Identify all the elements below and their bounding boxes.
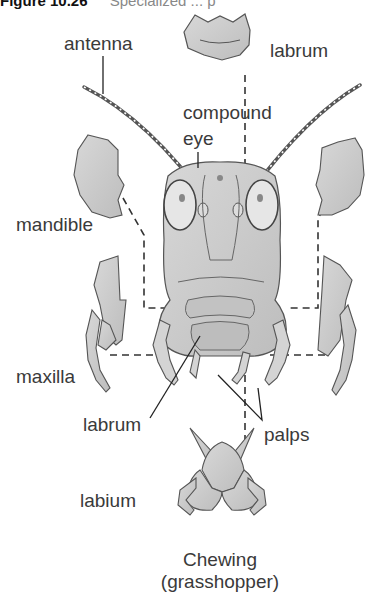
compound-eye-left	[164, 180, 196, 230]
compound-eye-right	[246, 180, 278, 230]
caption-line-1: Chewing	[120, 549, 320, 571]
label-compound: compound	[183, 103, 272, 122]
label-labrum-bottom: labrum	[83, 415, 141, 434]
label-maxilla: maxilla	[16, 367, 75, 386]
label-labium: labium	[80, 491, 136, 510]
label-antenna: antenna	[64, 34, 133, 53]
caption-line-2: (grasshopper)	[120, 571, 320, 593]
grasshopper-mouthparts-diagram	[0, 0, 385, 596]
maxilla-right-part	[318, 256, 356, 395]
label-labrum-top: labrum	[270, 41, 328, 60]
grasshopper-head	[159, 162, 287, 356]
caption: Chewing (grasshopper)	[120, 549, 320, 593]
label-mandible: mandible	[16, 215, 93, 234]
label-palps: palps	[264, 425, 309, 444]
mandible-left-part	[74, 135, 124, 218]
labium-part	[178, 428, 266, 515]
label-eye: eye	[183, 129, 214, 148]
maxilla-left-part	[86, 256, 126, 392]
labrum-top-part	[184, 14, 250, 60]
mandible-right-part	[316, 138, 364, 215]
